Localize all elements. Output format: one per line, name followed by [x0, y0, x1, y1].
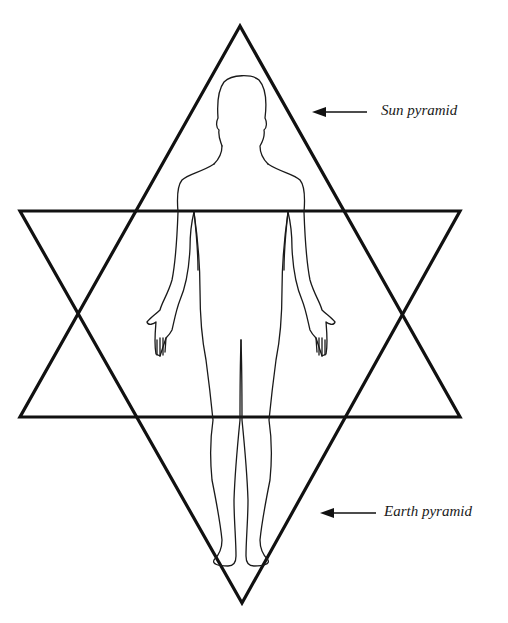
- sun-pyramid-label: Sun pyramid: [381, 102, 457, 119]
- left-shoulder-arm: [147, 164, 214, 356]
- earth-arrow: [320, 508, 376, 518]
- sun-arrow: [312, 107, 367, 117]
- earth-arrow-head: [320, 508, 334, 518]
- star-tetrahedron-diagram: [0, 0, 508, 623]
- torso-right-side: [241, 212, 288, 566]
- sun-arrow-head: [312, 107, 326, 117]
- earth-pyramid-label: Earth pyramid: [384, 503, 472, 520]
- neck-left: [214, 146, 222, 164]
- right-shoulder-arm: [268, 164, 335, 356]
- head-outline: [217, 76, 268, 164]
- human-body-outline: [147, 76, 335, 566]
- torso-left-side: [194, 212, 241, 566]
